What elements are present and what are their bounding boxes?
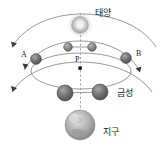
earth-body [65,110,95,140]
label-point-b: B [136,50,141,58]
label-earth: 지구 [103,128,119,137]
arrowhead-left-middle [23,64,29,70]
venus-upper-right [88,43,97,52]
venus-lower-left [57,85,73,101]
diagram-canvas [0,0,166,148]
point-p-marker [78,66,81,69]
venus-at-a [31,54,42,65]
label-point-p: P [75,56,79,64]
venus-upper-left [64,43,73,52]
arrowhead-right [136,67,142,73]
sun-core [77,22,84,29]
astronomy-diagram-figure: 태양 A B P 금성 지구 [0,0,166,148]
direction-arrowheads [11,42,142,93]
sun-body [67,12,93,38]
earth-highlight [69,113,79,123]
venus-orbit-ellipse [31,53,131,89]
label-point-a: A [21,51,27,59]
label-venus: 금성 [117,89,133,98]
label-sun: 태양 [95,9,111,18]
venus-lower-right [92,84,108,100]
venus-at-b [121,53,132,64]
